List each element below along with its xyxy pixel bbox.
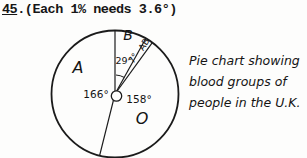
angle-arc-29 xyxy=(116,75,124,77)
caption-line-2: blood groups of xyxy=(189,71,307,92)
slice-label-b: B xyxy=(123,27,133,43)
angle-label-a: 166° xyxy=(83,88,108,100)
radius-line-o-a xyxy=(100,94,115,156)
chart-caption: Pie chart showing blood groups of people… xyxy=(189,50,307,113)
center-loop xyxy=(111,91,121,101)
radius-line-ab-o xyxy=(115,43,152,94)
caption-line-3: people in the U.K. xyxy=(189,92,307,113)
caption-line-1: Pie chart showing xyxy=(189,50,307,71)
slice-label-ab: AB xyxy=(136,36,151,52)
slice-label-o: O xyxy=(136,109,149,128)
angle-label-o: 158° xyxy=(126,93,151,105)
slice-label-a: A xyxy=(72,58,84,77)
worksheet-page: 45.(Each 1% needs 3.6°) A B O 166° 29° 1… xyxy=(0,0,307,158)
